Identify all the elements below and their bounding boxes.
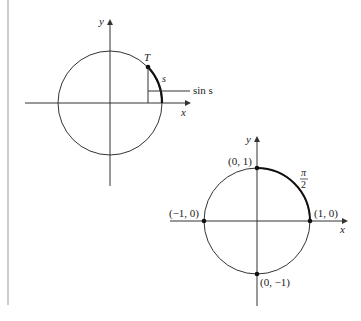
unit-circle-diagrams: y x T s sin s y x (0, 1) (1, 0) (−1, 0) … (0, 0, 361, 321)
fig2-y-label: y (245, 133, 251, 145)
fig2-pi-denominator: 2 (301, 179, 306, 190)
fig2-point-left (202, 219, 207, 224)
fig2-point-bottom (255, 272, 260, 277)
fig2-y-arrow-icon (254, 136, 260, 142)
fig1-y-arrow-icon (107, 19, 113, 25)
fig1-y-label: y (98, 15, 104, 27)
fig2-pi-numerator: π (301, 167, 307, 178)
fig1-x-arrow-icon (185, 100, 191, 106)
fig1-arc-s (148, 67, 162, 103)
fig1-point-t (146, 65, 151, 70)
fig2-label-neg1-0: (−1, 0) (169, 207, 199, 220)
fig2-label-0-1: (0, 1) (228, 155, 252, 168)
fig2-x-label: x (339, 223, 345, 235)
figure-2-quadrant-points: y x (0, 1) (1, 0) (−1, 0) (0, −1) π 2 (169, 133, 348, 306)
figure-1-sine-definition: y x T s sin s (25, 15, 213, 186)
fig2-point-right (308, 219, 313, 224)
fig2-label-0-neg1: (0, −1) (260, 276, 290, 289)
fig1-x-label: x (180, 106, 186, 118)
fig2-label-1-0: (1, 0) (314, 207, 338, 220)
fig1-s-label: s (162, 73, 166, 84)
fig1-t-label: T (144, 51, 151, 63)
fig1-sin-s-label: sin s (193, 84, 213, 96)
fig2-point-top (255, 166, 260, 171)
